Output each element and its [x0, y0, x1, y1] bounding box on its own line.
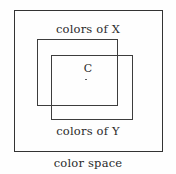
point-c-marker — [85, 79, 87, 81]
colors-of-y-label: colors of Y — [0, 126, 176, 138]
colors-of-x-label: colors of X — [0, 24, 176, 36]
color-space-label: color space — [0, 158, 176, 170]
point-c-label: C — [0, 63, 176, 74]
diagram-canvas: colors of X C colors of Y color space — [0, 0, 176, 174]
